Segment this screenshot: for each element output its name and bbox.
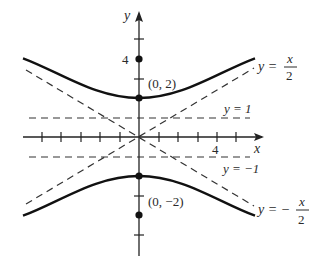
label-y-equals-1: y = 1 <box>222 101 252 116</box>
asymptote-neg <box>26 70 254 206</box>
asymptote-pos-lhs: y = <box>256 59 277 74</box>
x-axis-label: x <box>253 141 261 156</box>
point-label-0-neg2: (0, −2) <box>148 194 184 209</box>
point-0-2 <box>135 94 142 101</box>
asymptote-pos-den: 2 <box>286 68 293 83</box>
label-asymptote-neg: y = − x 2 <box>256 194 309 227</box>
label-asymptote-pos: y = x 2 <box>256 51 297 83</box>
asymptote-neg-lhs: y = − <box>256 202 290 217</box>
hyperbola-diagram: y x 4 4 (0, 2) (0, −2) y = 1 y = −1 y = … <box>0 0 331 274</box>
asymptote-pos-num: x <box>286 51 293 66</box>
point-label-0-2: (0, 2) <box>148 76 176 91</box>
asymptote-neg-num: x <box>298 194 305 209</box>
point-0-neg4 <box>135 211 142 218</box>
label-y-equals-neg1: y = −1 <box>221 161 259 176</box>
y-tick-label-4: 4 <box>122 52 129 67</box>
point-0-4 <box>135 55 142 62</box>
point-0-neg2 <box>135 172 142 179</box>
x-tick-label-4: 4 <box>212 142 219 157</box>
y-axis-label: y <box>122 8 131 23</box>
asymptote-pos <box>26 68 254 204</box>
asymptote-neg-den: 2 <box>298 212 305 227</box>
